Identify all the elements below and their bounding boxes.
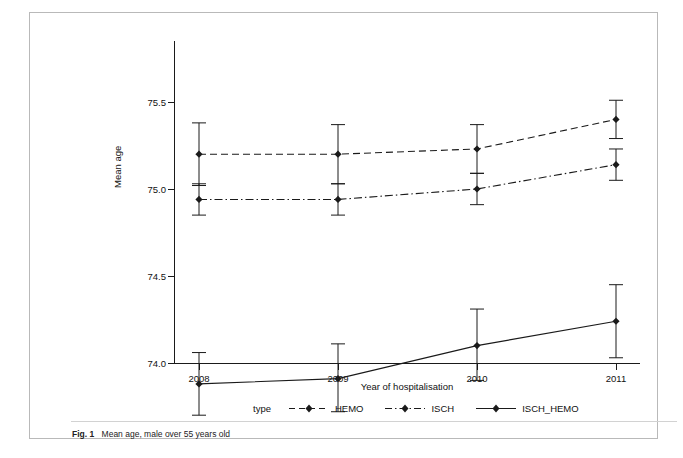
data-point-diamond-icon xyxy=(473,342,480,349)
data-point-diamond-icon xyxy=(612,318,619,325)
y-tick-label-1: 74.5 xyxy=(126,271,166,282)
legend-swatch-dashdot-diamond-icon xyxy=(385,403,425,414)
data-point-diamond-icon xyxy=(612,116,619,123)
legend-entry-isch: ISCH xyxy=(385,403,454,414)
series-isch_hemo xyxy=(192,285,623,416)
data-point-diamond-icon xyxy=(334,196,341,203)
chart-legend: type HEMO ISCH xyxy=(253,403,579,414)
series-line xyxy=(199,165,616,200)
legend-entry-isch-hemo: ISCH_HEMO xyxy=(476,403,578,414)
data-point-diamond-icon xyxy=(334,151,341,158)
legend-label-isch: ISCH xyxy=(431,403,454,414)
y-tick-label-0: 74.0 xyxy=(126,358,166,369)
legend-label-isch-hemo: ISCH_HEMO xyxy=(522,403,578,414)
series-plot xyxy=(174,41,640,364)
data-point-diamond-icon xyxy=(612,161,619,168)
caption-label: Fig. 1 xyxy=(72,429,94,439)
legend-swatch-solid-diamond-icon xyxy=(476,403,516,414)
series-line xyxy=(199,321,616,384)
x-axis-title: Year of hospitalisation xyxy=(361,381,454,392)
data-point-diamond-icon xyxy=(195,196,202,203)
legend-swatch-dashed-diamond-icon xyxy=(289,403,329,414)
series-line xyxy=(199,119,616,154)
series-hemo xyxy=(192,100,623,185)
figure-container: Mean age 74.0 74.5 75.0 75.5 2008 2009 2… xyxy=(0,0,683,458)
y-tick-label-3: 75.5 xyxy=(126,97,166,108)
figure-frame: Mean age 74.0 74.5 75.0 75.5 2008 2009 2… xyxy=(29,12,658,439)
figure-caption: Fig. 1 Mean age, male over 55 years old xyxy=(72,429,230,439)
x-tick-2011 xyxy=(616,364,617,370)
data-point-diamond-icon xyxy=(473,145,480,152)
y-axis-title: Mean age xyxy=(112,146,123,188)
caption-divider xyxy=(71,421,677,422)
caption-text: Mean age, male over 55 years old xyxy=(102,429,231,439)
plot-area: 74.0 74.5 75.0 75.5 2008 2009 2010 2011 xyxy=(174,41,640,364)
data-point-diamond-icon xyxy=(473,185,480,192)
y-tick-label-2: 75.0 xyxy=(126,184,166,195)
legend-entry-hemo: HEMO xyxy=(289,403,364,414)
series-isch xyxy=(192,149,623,215)
legend-label-hemo: HEMO xyxy=(335,403,364,414)
legend-title: type xyxy=(253,403,271,414)
x-tick-label-3: 2011 xyxy=(606,373,626,384)
data-point-diamond-icon xyxy=(195,151,202,158)
